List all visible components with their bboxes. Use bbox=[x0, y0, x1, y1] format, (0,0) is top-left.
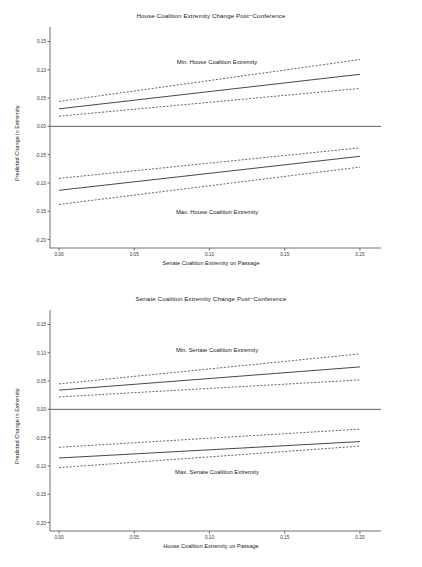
x-tick-label: 0.15 bbox=[280, 252, 289, 257]
x-axis-label: Senate Coalition Extremity on Passage bbox=[0, 260, 422, 266]
plot-area bbox=[0, 283, 422, 566]
y-tick-label: 0.05 bbox=[22, 96, 46, 101]
y-tick-label: 0.15 bbox=[22, 322, 46, 327]
chart-title: House Coalition Extremity Change Post−Co… bbox=[0, 12, 422, 19]
x-tick-label: 0.00 bbox=[54, 535, 63, 540]
chart-panel-house: House Coalition Extremity Change Post−Co… bbox=[0, 0, 422, 283]
y-tick-label: 0.00 bbox=[22, 407, 46, 412]
plot-annotation: Min. Senate Coalition Extremity bbox=[176, 347, 258, 353]
y-tick-label: -0.15 bbox=[22, 209, 46, 214]
fit-line bbox=[59, 442, 360, 458]
y-tick-label: 0.10 bbox=[22, 67, 46, 72]
chart-title: Senate Coalition Extremity Change Post−C… bbox=[0, 295, 422, 302]
y-tick-label: -0.15 bbox=[22, 492, 46, 497]
plot-area bbox=[0, 0, 422, 283]
y-tick-label: -0.20 bbox=[22, 237, 46, 242]
x-axis-label: House Coalition Extremity on Passage bbox=[0, 543, 422, 549]
fit-line bbox=[59, 74, 360, 109]
ci-line bbox=[59, 446, 360, 468]
y-tick-label: -0.10 bbox=[22, 180, 46, 185]
ci-line bbox=[59, 167, 360, 204]
x-tick-label: 0.10 bbox=[205, 252, 214, 257]
y-tick-label: -0.05 bbox=[22, 152, 46, 157]
x-tick-label: 0.20 bbox=[355, 535, 364, 540]
fit-line bbox=[59, 367, 360, 390]
x-tick-label: 0.00 bbox=[54, 252, 63, 257]
x-tick-label: 0.10 bbox=[205, 535, 214, 540]
x-tick-label: 0.05 bbox=[130, 535, 139, 540]
chart-panel-senate: Senate Coalition Extremity Change Post−C… bbox=[0, 283, 422, 566]
ci-line bbox=[59, 380, 360, 397]
fit-line bbox=[59, 156, 360, 190]
y-tick-label: -0.10 bbox=[22, 463, 46, 468]
ci-line bbox=[59, 354, 360, 384]
y-tick-label: 0.00 bbox=[22, 124, 46, 129]
plot-annotation: Max. House Coalition Extremity bbox=[176, 209, 258, 215]
ci-line bbox=[59, 148, 360, 179]
y-tick-label: 0.15 bbox=[22, 39, 46, 44]
plot-annotation: Max. Senate Coalition Extremity bbox=[175, 469, 259, 475]
y-tick-label: -0.20 bbox=[22, 520, 46, 525]
ci-line bbox=[59, 429, 360, 447]
x-tick-label: 0.20 bbox=[355, 252, 364, 257]
ci-line bbox=[59, 88, 360, 116]
y-tick-label: 0.05 bbox=[22, 379, 46, 384]
y-tick-label: -0.05 bbox=[22, 435, 46, 440]
y-axis-label: Predicted Change in Extremity bbox=[14, 388, 20, 464]
x-tick-label: 0.05 bbox=[130, 252, 139, 257]
y-tick-label: 0.10 bbox=[22, 350, 46, 355]
ci-line bbox=[59, 60, 360, 102]
plot-annotation: Min. House Coalition Extremity bbox=[177, 59, 258, 65]
x-tick-label: 0.15 bbox=[280, 535, 289, 540]
y-axis-label: Predicted Change in Extremity bbox=[14, 105, 20, 181]
